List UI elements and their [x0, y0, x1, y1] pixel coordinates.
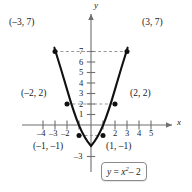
x-axis-label: x [177, 118, 181, 127]
x-tick-label-5: 5 [149, 129, 153, 138]
graph-figure: x y –4 –3 –2 2 3 4 5 1 2 3 4 5 6 7 –3 (–… [0, 0, 192, 192]
y-tick-label-3: 3 [79, 89, 83, 98]
point-2-2 [113, 102, 118, 107]
point-label-3-7: (3, 7) [142, 18, 163, 28]
x-tick-label-neg3: –3 [49, 129, 58, 138]
x-tick-label-3: 3 [125, 129, 129, 138]
point-3-7 [125, 49, 130, 54]
point-label-neg2-2: (–2, 2) [21, 89, 46, 99]
point-m2-2 [65, 102, 70, 107]
point-label-1-neg1: (1, –1) [106, 142, 131, 152]
equation-equals: = [114, 167, 119, 177]
x-tick-label-2: 2 [113, 129, 117, 138]
y-tick-label-neg3: –3 [74, 152, 83, 161]
equation-tail: – 2 [129, 167, 141, 177]
point-label-neg1-neg1: (–1, –1) [33, 142, 63, 152]
x-tick-label-4: 4 [137, 129, 141, 138]
y-axis [87, 14, 95, 172]
x-tick-label-neg4: –4 [37, 129, 46, 138]
y-tick-label-6: 6 [79, 58, 83, 67]
y-tick-label-1: 1 [79, 110, 83, 119]
x-tick-label-neg2: –2 [61, 129, 70, 138]
point-m1-m1 [77, 133, 82, 138]
equation-callout: y = x2– 2 [101, 162, 147, 181]
y-tick-label-7: 7 [79, 47, 83, 56]
point-m3-7 [53, 49, 58, 54]
equation-lhs: y [107, 167, 111, 177]
point-label-neg3-7: (–3, 7) [9, 18, 34, 28]
point-label-2-2: (2, 2) [130, 89, 151, 99]
point-1-m1 [101, 133, 106, 138]
y-tick-label-5: 5 [79, 68, 83, 77]
y-axis-label: y [94, 1, 98, 10]
y-tick-label-2: 2 [79, 100, 83, 109]
y-tick-label-4: 4 [79, 79, 83, 88]
